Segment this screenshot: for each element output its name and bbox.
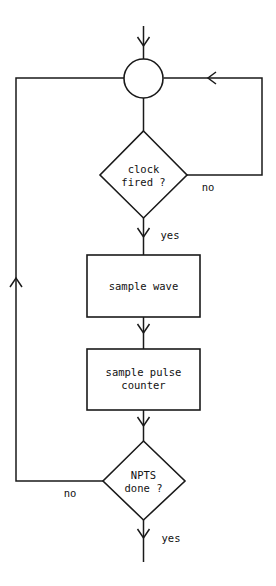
edge-wave-to-counter: [138, 317, 150, 349]
clock-fired-label-line2: fired ?: [121, 176, 165, 188]
flowchart-canvas: clock fired ? sample wave sample pulse c…: [0, 0, 276, 586]
flowchart-svg: clock fired ? sample wave sample pulse c…: [0, 0, 276, 586]
edge-label-clock-yes: yes: [161, 229, 180, 241]
junction-connector-circle[interactable]: [124, 59, 163, 98]
npts-done-label-line2: done ?: [125, 482, 163, 494]
sample-pulse-counter-label-line2: counter: [121, 379, 165, 391]
sample-wave-label: sample wave: [109, 280, 179, 292]
edge-npts-yes-exit: [138, 520, 150, 562]
entry-arrow: [138, 26, 150, 59]
clock-fired-label-line1: clock: [128, 163, 160, 175]
edge-counter-to-npts: [138, 410, 150, 441]
sample-pulse-counter-label-line1: sample pulse: [106, 366, 182, 378]
edge-clock-yes: [138, 218, 150, 255]
npts-done-label-line1: NPTS: [131, 469, 156, 481]
edge-label-npts-no: no: [64, 487, 77, 499]
edge-label-clock-no: no: [202, 181, 215, 193]
edge-label-npts-yes: yes: [162, 532, 181, 544]
edge-clock-no-loop: [164, 72, 263, 175]
